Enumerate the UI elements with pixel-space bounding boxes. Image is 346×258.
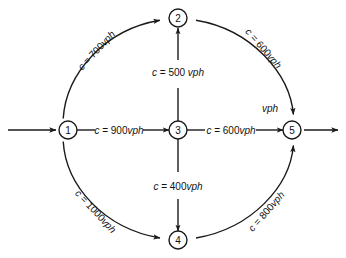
edge-1-to-3-label: c = 900vph (94, 125, 144, 136)
node-4-label: 4 (175, 235, 181, 246)
edge-3-to-2-label: c = 500 vph (152, 67, 204, 78)
node-2[interactable]: 2 (169, 9, 187, 27)
node-3-label: 3 (175, 125, 181, 136)
node-5-label: 5 (289, 125, 295, 136)
edge-2-to-5-label: c = 600vph (244, 26, 285, 71)
network-diagram: 1 2 3 4 5 c = 700vph c = 600vph (0, 0, 346, 258)
node-5[interactable]: 5 (283, 121, 301, 139)
node-2-label: 2 (175, 13, 181, 24)
node-1[interactable]: 1 (59, 121, 77, 139)
node-3[interactable]: 3 (169, 121, 187, 139)
edge-1-to-2-label: c = 700vph (75, 28, 117, 72)
stray-vph-label: vph (262, 103, 279, 114)
edge-1-to-4-label: c = 1000vph (73, 187, 119, 235)
edge-3-to-4-label: c = 400vph (153, 181, 203, 192)
node-1-label: 1 (65, 125, 71, 136)
edge-3-to-5-label: c = 600vph (206, 125, 256, 136)
network-graph-canvas: 1 2 3 4 5 c = 700vph c = 600vph (0, 0, 346, 258)
edge-4-to-5-label: c = 800vph (246, 188, 287, 233)
node-4[interactable]: 4 (169, 231, 187, 249)
